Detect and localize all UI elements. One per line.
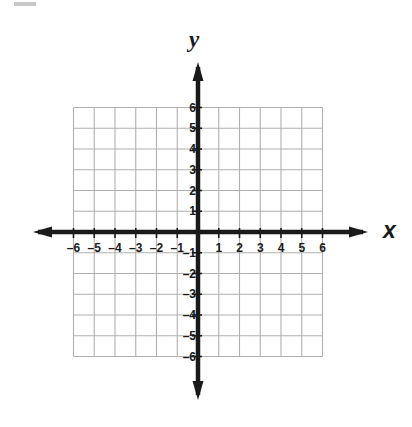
- x-tick-label: 3: [257, 242, 264, 254]
- y-tick-label: 4: [189, 143, 196, 155]
- x-axis-arrow-left-icon: [33, 227, 52, 238]
- x-axis-label: x: [383, 219, 396, 242]
- y-tick-label: –1: [183, 247, 196, 259]
- x-tick-label: –5: [88, 242, 101, 254]
- y-tick-label: –5: [183, 330, 196, 342]
- x-tick-label: 5: [298, 242, 305, 254]
- x-tick-label: –6: [67, 242, 80, 254]
- x-tick-label: 4: [278, 242, 285, 254]
- y-tick-label: 1: [189, 205, 196, 217]
- y-tick-label: –3: [183, 288, 196, 300]
- y-tick-label: –6: [183, 351, 196, 363]
- y-tick-label: 5: [189, 122, 196, 134]
- y-tick-label: –2: [183, 268, 196, 280]
- x-tick-label: –3: [129, 242, 142, 254]
- y-tick-label: 3: [189, 164, 196, 176]
- x-tick-label: 6: [319, 242, 326, 254]
- y-axis-arrow-up-icon: [193, 62, 204, 81]
- y-axis-label: y: [189, 28, 199, 51]
- y-axis-arrow-down-icon: [193, 381, 204, 400]
- x-axis-arrow-right-icon: [349, 227, 368, 238]
- coordinate-grid-svg: [0, 0, 412, 427]
- y-tick-label: 2: [189, 185, 196, 197]
- x-tick-label: –2: [150, 242, 163, 254]
- coordinate-plane-figure: –6–5–4–3–2–1123456 654321–1–2–3–4–5–6 y …: [0, 0, 412, 427]
- y-tick-label: –4: [183, 309, 196, 321]
- y-tick-label: 6: [189, 102, 196, 114]
- x-tick-label: 2: [236, 242, 243, 254]
- axes-group: [33, 62, 368, 400]
- x-tick-label: –4: [108, 242, 121, 254]
- x-tick-label: 1: [215, 242, 222, 254]
